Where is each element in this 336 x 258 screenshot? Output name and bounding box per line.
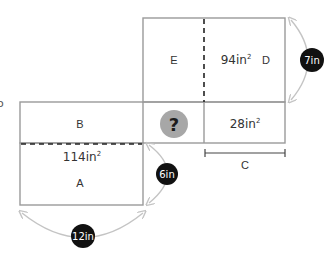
area-exponent-c: 2 — [256, 117, 260, 125]
area-exponent-d: 2 — [247, 53, 251, 61]
region-label-d: D — [262, 54, 270, 66]
region-area-c: 28in2 — [230, 117, 261, 131]
region-label-b: B — [76, 118, 83, 130]
area-value-a: 114in — [63, 150, 97, 164]
shape-outlines — [20, 18, 285, 205]
dimension-line-c — [205, 149, 285, 157]
dimension-label-c: C — [241, 159, 249, 171]
region-area-a: 114in2 — [63, 150, 101, 164]
region-label-a: A — [76, 177, 83, 189]
region-label-e: E — [170, 54, 177, 66]
region-area-d: 94in2 — [221, 53, 252, 67]
dimension-badge-6in: 6in — [156, 163, 178, 185]
question-mark-icon: ? — [160, 110, 188, 138]
area-value-c: 28in — [230, 117, 256, 131]
dimension-badge-12in: 12in — [71, 224, 95, 248]
area-value-d: 94in — [221, 53, 247, 67]
area-exponent-a: 2 — [97, 150, 101, 158]
cropped-edge-glyph: o — [0, 97, 4, 110]
dimension-badge-7in: 7in — [300, 48, 324, 72]
